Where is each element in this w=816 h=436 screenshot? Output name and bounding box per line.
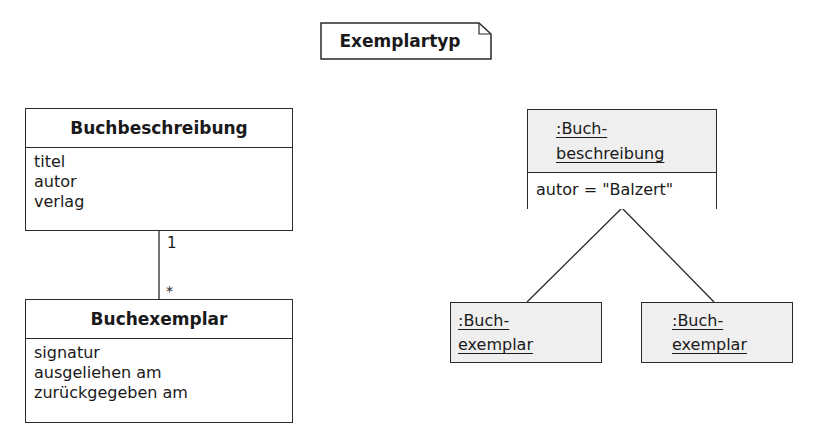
note-label: Exemplartyp — [339, 31, 460, 51]
attribute: verlag — [26, 192, 292, 212]
object-divider: autor = "Balzert" — [528, 172, 716, 209]
class-divider: titel autor verlag — [26, 147, 292, 212]
object-buchexemplar-2: :Buch- exemplar — [641, 302, 793, 363]
attribute: titel — [26, 152, 292, 172]
multiplicity-many: * — [166, 283, 173, 299]
class-divider: signatur ausgeliehen am zurückgegeben am — [26, 338, 292, 403]
object-buchbeschreibung: :Buch- beschreibung autor = "Balzert" — [527, 109, 717, 209]
note-exemplartyp: Exemplartyp — [321, 23, 479, 59]
attribute: autor — [26, 172, 292, 192]
object-attribute: autor = "Balzert" — [536, 180, 673, 199]
multiplicity-one: 1 — [167, 234, 177, 252]
class-buchexemplar: Buchexemplar signatur ausgeliehen am zur… — [25, 299, 293, 423]
attribute: signatur — [26, 343, 292, 363]
class-buchbeschreibung: Buchbeschreibung titel autor verlag — [25, 108, 293, 231]
attribute: zurückgegeben am — [26, 383, 292, 403]
object-name: :Buch- beschreibung — [528, 110, 716, 172]
object-buchexemplar-1: :Buch- exemplar — [450, 302, 602, 363]
class-name: Buchexemplar — [26, 300, 292, 338]
class-name: Buchbeschreibung — [26, 109, 292, 147]
attribute: ausgeliehen am — [26, 363, 292, 383]
